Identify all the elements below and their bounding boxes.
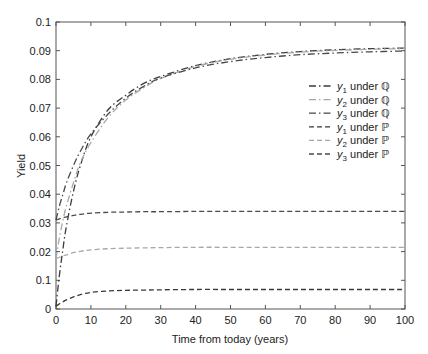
y-tick-label: 0.08 bbox=[30, 73, 51, 85]
x-axis-label: Time from today (years) bbox=[172, 333, 288, 345]
x-tick-label: 10 bbox=[85, 314, 97, 326]
plot-frame bbox=[56, 22, 405, 309]
y-tick-label: 0.1 bbox=[36, 274, 51, 286]
legend: y1 under ℚy2 under ℚy3 under ℚy1 under ℙ… bbox=[309, 80, 390, 163]
x-tick-label: 20 bbox=[120, 314, 132, 326]
y-tick-label: 0.02 bbox=[30, 246, 51, 258]
series-line-5 bbox=[56, 247, 405, 259]
x-tick-label: 80 bbox=[329, 314, 341, 326]
y-tick-label: 0.07 bbox=[30, 102, 51, 114]
series-line-6 bbox=[56, 211, 405, 220]
y-tick-label: 0.06 bbox=[30, 131, 51, 143]
y-tick-label: 0.03 bbox=[30, 217, 51, 229]
legend-entry: y3 under ℙ bbox=[336, 148, 389, 163]
x-tick-label: 70 bbox=[294, 314, 306, 326]
x-tick-label: 30 bbox=[155, 314, 167, 326]
x-tick-label: 0 bbox=[53, 314, 59, 326]
x-tick-label: 40 bbox=[189, 314, 201, 326]
y-tick-label: 0 bbox=[45, 303, 51, 315]
x-tick-label: 60 bbox=[259, 314, 271, 326]
chart: 0102030405060708090100 00.10.020.030.040… bbox=[0, 0, 428, 354]
plot-border bbox=[56, 22, 405, 309]
y-tick-label: 0.1 bbox=[36, 16, 51, 28]
x-axis: 0102030405060708090100 bbox=[53, 22, 414, 326]
y-axis: 00.10.020.030.040.050.060.070.080.090.1 bbox=[30, 16, 405, 315]
y-tick-label: 0.04 bbox=[30, 188, 51, 200]
y-tick-label: 0.09 bbox=[30, 45, 51, 57]
y-tick-label: 0.05 bbox=[30, 160, 51, 172]
x-tick-label: 90 bbox=[364, 314, 376, 326]
series-line-4 bbox=[56, 289, 405, 306]
x-tick-label: 50 bbox=[224, 314, 236, 326]
y-axis-label: Yield bbox=[15, 154, 27, 178]
x-tick-label: 100 bbox=[396, 314, 414, 326]
